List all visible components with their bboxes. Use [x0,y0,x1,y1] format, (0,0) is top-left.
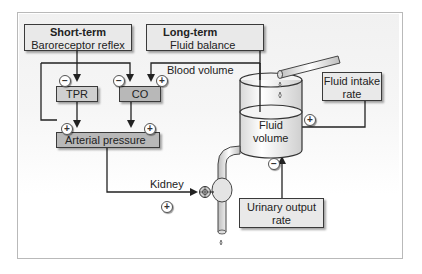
kidney-label: Kidney [150,178,184,190]
arterial-pressure-box: Arterial pressure [56,132,160,148]
co-label: CO [132,88,149,100]
plus-sign-ap-to-kidney: + [161,201,173,213]
minus-sign-short-to-tpr: − [59,75,71,87]
long-term-title: Long-term [163,26,263,39]
tpr-label: TPR [66,88,88,100]
fluid-intake-line1: Fluid intake [323,75,381,88]
fluid-intake-box: Fluid intake rate [322,72,382,101]
long-term-subtitle: Fluid balance [163,39,263,52]
short-term-box: Short-term Baroreceptor reflex [24,24,132,51]
urinary-output-box: Urinary output rate [239,198,324,228]
fluid-volume-label-2: volume [253,132,288,144]
plus-sign-co-to-ap: + [144,123,156,135]
minus-sign-output-to-volume: − [268,158,280,170]
long-term-box: Long-term Fluid balance [146,24,264,51]
fluid-volume-label-1: Fluid [259,119,283,131]
urinary-output-line2: rate [240,214,323,227]
outflow-pipe [200,146,241,245]
plus-sign-long-to-co: + [156,75,168,87]
minus-sign-short-to-co: − [113,75,125,87]
tpr-box: TPR [56,86,98,102]
short-term-subtitle: Baroreceptor reflex [25,39,131,52]
short-term-title: Short-term [25,26,131,39]
blood-volume-label: Blood volume [167,64,234,76]
plus-sign-tpr-to-ap: + [61,123,73,135]
arterial-pressure-label: Arterial pressure [65,134,146,146]
co-box: CO [119,86,161,102]
fluid-intake-line2: rate [323,88,381,101]
urinary-output-line1: Urinary output [240,201,323,214]
plus-sign-intake-to-volume: + [304,114,316,126]
